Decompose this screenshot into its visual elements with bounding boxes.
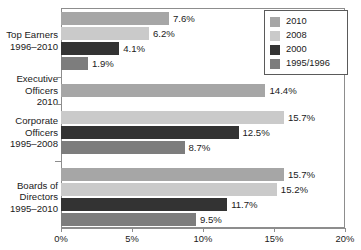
- legend-swatch-icon: [270, 59, 280, 69]
- category-label-line: Corporate: [10, 115, 58, 127]
- bar: [61, 12, 169, 25]
- group-separator-tick: [55, 161, 61, 162]
- legend-label: 2000: [286, 44, 307, 55]
- legend-swatch-icon: [270, 31, 280, 41]
- bar-value-label: 6.2%: [153, 27, 175, 40]
- bar-value-label: 1.9%: [92, 57, 114, 70]
- bar-value-label: 12.5%: [243, 126, 270, 139]
- legend-label: 1995/1996: [286, 58, 330, 69]
- legend-swatch-icon: [270, 45, 280, 55]
- bar: [61, 126, 239, 139]
- bar-value-label: 15.2%: [281, 183, 308, 196]
- bar-value-label: 4.1%: [123, 42, 145, 55]
- bar: [61, 27, 149, 40]
- category-label-line: Officers: [10, 127, 58, 139]
- legend-item: 2010: [270, 15, 343, 28]
- x-axis-tick: [61, 228, 62, 232]
- category-label-line: 2010: [16, 96, 58, 108]
- x-axis-tick-label: 5%: [125, 233, 139, 245]
- category-label-line: Boards of: [10, 180, 58, 192]
- x-axis-tick-label: 0%: [54, 233, 68, 245]
- bar-value-label: 9.5%: [200, 213, 222, 226]
- bar: [61, 57, 88, 70]
- bar-value-label: 7.6%: [173, 12, 195, 25]
- category-label-line: 1995–2010: [10, 203, 58, 215]
- bar: [61, 213, 196, 226]
- x-axis-tick: [203, 228, 204, 232]
- bar-chart: 7.6%6.2%4.1%1.9%14.4%15.7%12.5%8.7%15.7%…: [0, 0, 361, 250]
- bar-value-label: 11.7%: [231, 198, 258, 211]
- group-separator-tick: [55, 77, 61, 78]
- category-label-line: Top Earners: [6, 29, 58, 41]
- legend-item: 2008: [270, 29, 343, 42]
- x-axis-tick-label: 15%: [265, 233, 284, 245]
- x-axis-tick: [274, 228, 275, 232]
- bar-value-label: 15.7%: [288, 111, 315, 124]
- category-label-line: Directors: [10, 191, 58, 203]
- bar-value-label: 14.4%: [269, 84, 296, 97]
- bar: [61, 141, 185, 154]
- x-axis-tick: [345, 228, 346, 232]
- legend-item: 1995/1996: [270, 57, 343, 70]
- bar: [61, 42, 119, 55]
- bar-value-label: 15.7%: [288, 168, 315, 181]
- category-label-line: Executive: [16, 73, 58, 85]
- category-label-line: 1996–2010: [6, 41, 58, 53]
- category-label: ExecutiveOfficers2010: [16, 73, 58, 108]
- category-label: Top Earners1996–2010: [6, 29, 58, 52]
- x-axis-tick: [132, 228, 133, 232]
- category-label-line: 1995–2008: [10, 138, 58, 150]
- category-label: CorporateOfficers1995–2008: [10, 115, 58, 150]
- bar: [61, 183, 277, 196]
- x-axis-tick-label: 10%: [194, 233, 213, 245]
- x-axis-tick-label: 20%: [336, 233, 355, 245]
- chart-legend: 2010200820001995/1996: [264, 10, 348, 75]
- category-label: Boards ofDirectors1995–2010: [10, 180, 58, 215]
- group-separator-tick: [55, 104, 61, 105]
- legend-item: 2000: [270, 43, 343, 56]
- legend-swatch-icon: [270, 17, 280, 27]
- legend-label: 2010: [286, 16, 307, 27]
- bar: [61, 111, 284, 124]
- legend-label: 2008: [286, 30, 307, 41]
- bar-value-label: 8.7%: [189, 141, 211, 154]
- bar: [61, 84, 265, 97]
- bar: [61, 198, 227, 211]
- category-label-line: Officers: [16, 85, 58, 97]
- bar: [61, 168, 284, 181]
